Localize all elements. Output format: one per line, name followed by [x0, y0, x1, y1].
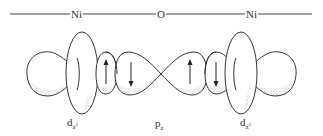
- atom-label-left-ni: Ni: [70, 8, 83, 20]
- orbital-label-right-dz2: dz2: [240, 116, 251, 133]
- orbital-label-pz: pz: [155, 117, 164, 134]
- atom-label-right-ni: Ni: [245, 8, 258, 20]
- orbital-label-left-dz2: dz2: [67, 116, 78, 133]
- o-pz-orbital: [115, 52, 207, 95]
- right-dz2-torus: [225, 32, 257, 114]
- left-dz2-orbital: [27, 32, 117, 114]
- right-dz2-orbital: [205, 32, 296, 114]
- left-dz2-torus: [66, 32, 98, 114]
- atom-label-o: O: [156, 8, 166, 20]
- orbital-diagram: [0, 0, 323, 136]
